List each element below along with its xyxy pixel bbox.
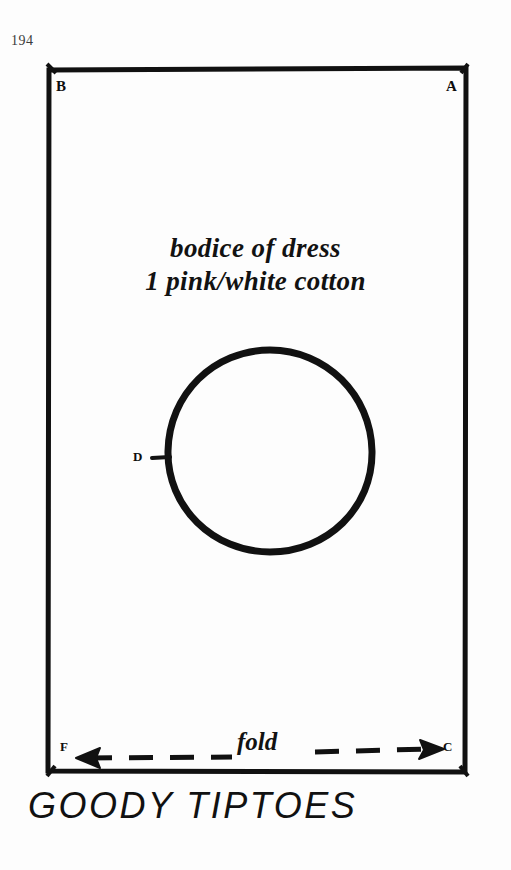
page-title: GOODY TIPTOES bbox=[28, 784, 357, 828]
corner-label-a: A bbox=[446, 78, 457, 95]
armhole-circle bbox=[168, 350, 372, 552]
corner-label-c: C bbox=[443, 739, 452, 755]
fold-dash-right bbox=[315, 749, 428, 752]
pattern-page: 194 B A D F C bodice of dress 1 pink/whi… bbox=[0, 0, 511, 870]
fold-line-label: fold bbox=[232, 728, 282, 756]
corner-label-b: B bbox=[56, 78, 66, 95]
circle-label-d: D bbox=[133, 449, 142, 465]
fold-arrowhead-left bbox=[76, 748, 100, 768]
pattern-caption-line-1: bodice of dress bbox=[0, 233, 511, 264]
fold-dash-left bbox=[88, 757, 232, 758]
fold-arrowhead-right bbox=[419, 740, 444, 759]
corner-label-f: F bbox=[60, 739, 68, 755]
pattern-rectangle bbox=[48, 68, 466, 772]
pattern-caption-line-2: 1 pink/white cotton bbox=[0, 266, 511, 297]
circle-tick-marker bbox=[152, 457, 170, 458]
